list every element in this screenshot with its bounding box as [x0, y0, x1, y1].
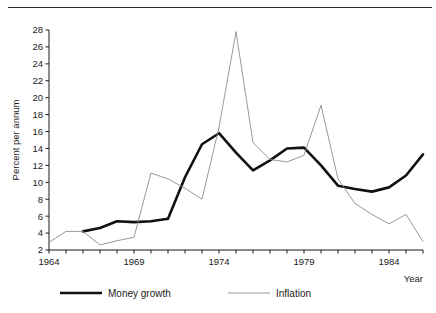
y-tick-label: 16: [32, 126, 43, 137]
y-tick-label: 28: [32, 24, 43, 35]
series-line-2: [49, 32, 423, 245]
y-tick-label: 6: [38, 211, 43, 222]
y-tick-label: 2: [38, 244, 43, 255]
y-tick-label: 4: [38, 227, 43, 238]
x-tick-label: 1984: [378, 256, 399, 267]
line-chart: 2468101214161820222426281964196919741979…: [0, 0, 436, 313]
legend-label-1: Money growth: [108, 288, 171, 299]
y-tick-label: 24: [32, 58, 43, 69]
y-tick-label: 14: [32, 143, 43, 154]
x-tick-label: 1974: [208, 256, 229, 267]
x-tick-label: 1979: [293, 256, 314, 267]
y-tick-label: 20: [32, 92, 43, 103]
y-tick-label: 8: [38, 194, 43, 205]
series-line-1: [83, 133, 423, 231]
y-axis-title: Percent per annum: [10, 100, 21, 181]
x-tick-label: 1964: [38, 256, 59, 267]
top-rule-divider: [8, 7, 432, 8]
x-axis-title: Year: [404, 273, 423, 284]
y-tick-label: 18: [32, 109, 43, 120]
chart-figure: 2468101214161820222426281964196919741979…: [0, 0, 436, 313]
y-tick-label: 22: [32, 75, 43, 86]
y-tick-label: 26: [32, 41, 43, 52]
legend-label-2: Inflation: [276, 288, 311, 299]
x-tick-label: 1969: [123, 256, 144, 267]
y-tick-label: 10: [32, 177, 43, 188]
y-tick-label: 12: [32, 160, 43, 171]
